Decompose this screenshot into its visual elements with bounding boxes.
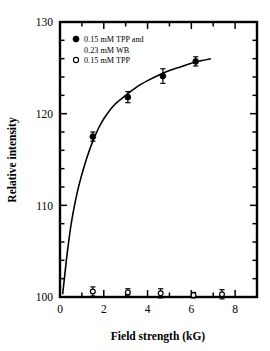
chart-figure: 02468 100110120130 0.15 mM TPP and0.23 m…	[0, 0, 270, 351]
data-point-open-circle	[125, 290, 130, 295]
data-point-filled-circle	[90, 134, 96, 140]
data-point-filled-circle	[125, 94, 131, 100]
x-tick-label-8: 8	[232, 303, 238, 315]
y-tick-label-110: 110	[36, 200, 53, 212]
y-tick-label-130: 130	[36, 16, 54, 28]
x-tick-label-4: 4	[145, 303, 151, 315]
x-axis-title: Field strength (kG)	[111, 330, 206, 343]
relative-intensity-vs-field-strength-chart: 02468 100110120130 0.15 mM TPP and0.23 m…	[0, 0, 270, 351]
data-point-open-circle	[158, 291, 163, 296]
legend-label-1: 0.15 mM TPP and	[84, 35, 144, 44]
y-axis-title: Relative intensity	[6, 117, 19, 203]
x-tick-label-2: 2	[101, 303, 107, 315]
data-point-filled-circle	[193, 59, 199, 65]
data-point-open-circle	[90, 289, 95, 294]
legend-marker-filled-circle	[73, 36, 79, 42]
x-tick-label-0: 0	[57, 303, 63, 315]
legend-label-1-line2: 0.23 mM WB	[84, 46, 130, 55]
data-point-filled-circle	[160, 73, 166, 79]
legend-label-2: 0.15 mM TPP	[84, 56, 130, 65]
x-tick-label-6: 6	[188, 303, 194, 315]
data-point-open-circle	[191, 293, 196, 298]
legend-marker-open-circle	[73, 57, 78, 62]
y-tick-label-100: 100	[36, 291, 54, 303]
data-point-open-circle	[220, 292, 225, 297]
y-tick-label-120: 120	[36, 108, 54, 120]
